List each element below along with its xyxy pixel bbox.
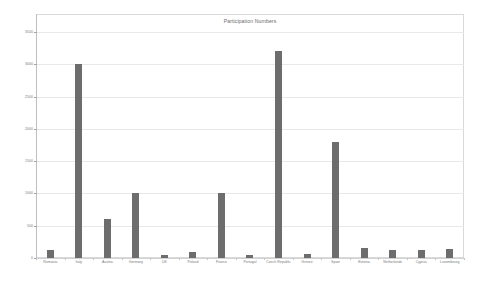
x-tick-mark xyxy=(150,258,151,260)
bar xyxy=(275,51,282,258)
bar xyxy=(161,255,168,258)
bar xyxy=(47,250,54,258)
bar xyxy=(304,254,311,258)
y-tick-label: 1500 xyxy=(25,159,33,163)
x-tick-label: Romania xyxy=(36,260,65,265)
x-tick-label: Cyprus xyxy=(407,260,436,265)
bar-slot xyxy=(293,32,322,258)
x-tick-label: Netherlands xyxy=(378,260,407,265)
bar xyxy=(418,250,425,258)
y-tick-label: 3000 xyxy=(25,62,33,66)
bar-slot xyxy=(207,32,236,258)
x-tick-mark xyxy=(407,258,408,260)
x-tick-label: Greece xyxy=(293,260,322,265)
x-tick-label: Luxembourg xyxy=(435,260,464,265)
x-axis-labels: RomaniaItalyAustriaGermanyUKPolandFrance… xyxy=(36,260,464,272)
x-tick-mark xyxy=(93,258,94,260)
x-tick-mark xyxy=(179,258,180,260)
x-tick-label: Poland xyxy=(179,260,208,265)
bar xyxy=(132,193,139,258)
x-tick-mark xyxy=(293,258,294,260)
bar-slot xyxy=(435,32,464,258)
x-tick-label: Czech Republic xyxy=(264,260,293,265)
x-tick-label: Portugal xyxy=(236,260,265,265)
y-tick-label: 0 xyxy=(31,256,33,260)
bar-slot xyxy=(122,32,151,258)
x-tick-label: Germany xyxy=(122,260,151,265)
x-tick-mark xyxy=(378,258,379,260)
bar-slot xyxy=(179,32,208,258)
bar-slot xyxy=(236,32,265,258)
y-tick-label: 1000 xyxy=(25,191,33,195)
x-tick-label: UK xyxy=(150,260,179,265)
bar-slot xyxy=(36,32,65,258)
x-tick-mark xyxy=(464,258,465,260)
x-tick-mark xyxy=(321,258,322,260)
x-tick-label: France xyxy=(207,260,236,265)
x-tick-mark xyxy=(264,258,265,260)
y-tick-label: 3500 xyxy=(25,30,33,34)
bar-slot xyxy=(65,32,94,258)
bar-slot xyxy=(264,32,293,258)
x-tick-label: Italy xyxy=(65,260,94,265)
bar-slot xyxy=(93,32,122,258)
y-tick-label: 2000 xyxy=(25,127,33,131)
bar-slot xyxy=(378,32,407,258)
plot-area: 0500100015002000250030003500 xyxy=(36,32,464,258)
y-tick-label: 500 xyxy=(27,224,33,228)
chart-container: Participation Numbers 050010001500200025… xyxy=(0,0,478,286)
x-tick-mark xyxy=(65,258,66,260)
x-tick-label: Spain xyxy=(321,260,350,265)
bar xyxy=(332,142,339,258)
bar-slot xyxy=(407,32,436,258)
x-tick-label: Estonia xyxy=(350,260,379,265)
gridline xyxy=(36,258,464,259)
bar xyxy=(361,248,368,258)
x-tick-label: Austria xyxy=(93,260,122,265)
bar xyxy=(75,64,82,258)
bar xyxy=(246,255,253,258)
bar-slot xyxy=(150,32,179,258)
bar xyxy=(218,193,225,258)
bar xyxy=(446,249,453,258)
bar xyxy=(389,250,396,258)
x-tick-mark xyxy=(122,258,123,260)
bar xyxy=(104,219,111,258)
x-tick-mark xyxy=(36,258,37,260)
x-tick-mark xyxy=(350,258,351,260)
bar-slot xyxy=(350,32,379,258)
bar xyxy=(189,252,196,258)
chart-title: Participation Numbers xyxy=(36,18,464,25)
y-tick-label: 2500 xyxy=(25,95,33,99)
bar-slot xyxy=(321,32,350,258)
x-tick-mark xyxy=(435,258,436,260)
x-tick-mark xyxy=(236,258,237,260)
x-tick-mark xyxy=(207,258,208,260)
